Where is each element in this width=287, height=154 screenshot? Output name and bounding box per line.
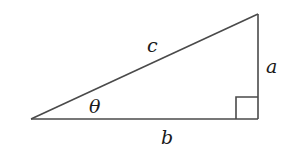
label-theta-angle: θ xyxy=(89,95,101,117)
right-angle-marker xyxy=(236,97,258,119)
label-a-opposite: a xyxy=(266,55,277,77)
side-c-hypotenuse xyxy=(31,14,258,119)
triangle xyxy=(31,14,258,119)
label-b-adjacent: b xyxy=(161,126,173,148)
right-triangle-diagram: c a θ b xyxy=(0,0,287,154)
label-c-hypotenuse: c xyxy=(147,34,158,56)
